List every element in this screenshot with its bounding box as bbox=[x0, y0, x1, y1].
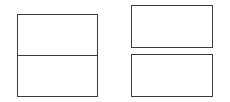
right-top-box bbox=[131, 5, 213, 48]
right-bottom-box bbox=[131, 54, 213, 97]
left-box-divider bbox=[17, 55, 98, 56]
